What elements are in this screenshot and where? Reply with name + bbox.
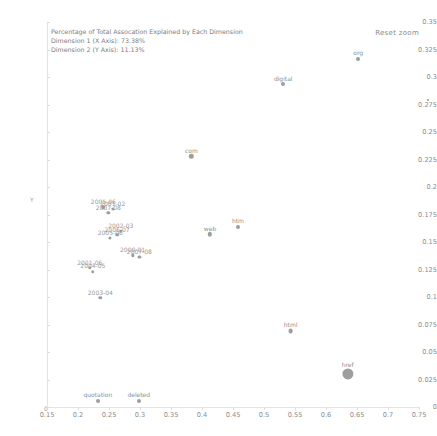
y-axis-tick-label: 0.25 [393,128,437,136]
scatter-point-label: 2004-05 [80,262,105,269]
scatter-point-label: 2007-08 [96,204,121,211]
y-axis-tick-mark [47,22,50,23]
y-axis-tick-label: 0.2 [393,183,437,191]
y-axis-title: Y [30,196,34,203]
scatter-point-label: 2001-06 [77,259,102,266]
legend-dimension-2: Dimension 2 (Y Axis): 11.13% [51,45,243,54]
x-axis-tick-mark [109,407,110,410]
x-axis-tick-label: 0.6 [321,411,332,419]
x-axis-tick-mark [264,407,265,410]
scatter-point[interactable] [111,207,114,210]
y-axis-tick-label: 0.025 [393,376,437,384]
x-axis-tick-label: 0.7 [383,411,394,419]
scatter-point[interactable] [356,57,360,61]
y-axis-tick-mark [47,325,50,326]
y-axis-tick-mark [47,380,50,381]
scatter-point[interactable] [107,211,110,214]
y-axis-tick-mark [47,215,50,216]
x-axis-tick-mark [140,407,141,410]
x-axis-tick-mark [78,407,79,410]
scatter-point[interactable] [281,82,285,86]
x-axis-tick-mark [233,407,234,410]
x-axis-tick-label: 0.15 [40,411,55,419]
chart-legend: Percentage of Total Assocation Explained… [51,27,243,55]
scatter-point[interactable] [138,255,141,258]
scatter-point-label: 2002-03 [108,222,133,229]
x-axis-tick-label: 0.35 [164,411,179,419]
scatter-point[interactable] [109,236,112,239]
scatter-point[interactable] [115,233,119,237]
y-axis-tick-label: 0.15 [393,238,437,246]
scatter-point-label: web [204,225,216,232]
x-axis-tick-mark [295,407,296,410]
y-axis-tick-mark [47,77,50,78]
y-axis-tick-mark [47,242,50,243]
y-axis-tick-label: 0.05 [393,348,437,356]
scatter-point[interactable] [119,229,122,232]
x-axis-tick-mark [388,407,389,410]
x-axis-tick-label: 0.2 [73,411,84,419]
scatter-point-label: 2006-07 [105,226,130,233]
x-axis-tick-label: 0.75 [412,411,427,419]
y-axis-tick-mark [47,160,50,161]
y-axis-tick-mark [47,352,50,353]
reset-zoom-button[interactable]: Reset zoom [375,29,419,37]
y-axis-tick-label: 0.3 [393,73,437,81]
x-axis-tick-label: 0.65 [350,411,365,419]
scatter-point-label: 2005-06 [91,198,116,205]
x-axis-tick-label: 0.4 [197,411,208,419]
scatter-point-label: 2000-01 [120,246,145,253]
scatter-point[interactable] [102,206,106,210]
y-axis-tick-label: 0.325 [393,46,437,54]
y-axis-tick-mark [47,187,50,188]
y-axis-tick-mark [47,270,50,271]
scatter-point[interactable] [88,266,91,269]
x-axis-tick-label: 0.5 [259,411,270,419]
x-axis-tick-mark [357,407,358,410]
scatter-point[interactable] [99,296,102,299]
scatter-point[interactable] [137,399,141,403]
x-axis-tick-mark [47,407,48,410]
x-axis-tick-label: 0.45 [226,411,241,419]
x-axis-tick-label: 0.3 [135,411,146,419]
x-axis-tick-mark [326,407,327,410]
scatter-point[interactable] [131,253,134,256]
scatter-point-label: com [185,147,198,154]
y-axis-tick-label: 0.125 [393,266,437,274]
legend-title: Percentage of Total Assocation Explained… [51,27,243,36]
x-axis-tick-label: 0.55 [288,411,303,419]
y-axis-tick-label: 0.075 [393,321,437,329]
y-axis-tick-mark [47,105,50,106]
scatter-point[interactable] [91,270,95,274]
scatter-point-label: html [284,321,298,328]
x-axis-tick-mark [419,407,420,410]
y-axis-tick-label: 0.275 [393,101,437,109]
x-axis-tick-label: 0.25 [102,411,117,419]
x-axis-tick-mark [171,407,172,410]
y-axis-tick-mark [47,297,50,298]
scatter-point-label: org [353,49,363,56]
y-axis-tick-label: 0.1 [393,293,437,301]
scatter-point-label: htm [232,217,244,224]
scatter-point-label: digital [274,75,293,82]
scatter-point[interactable] [208,232,212,236]
scatter-point[interactable] [288,329,293,334]
x-axis-tick-mark [202,407,203,410]
y-axis-tick-label: 0.35 [393,18,437,26]
scatter-point-label: deleted [127,391,150,398]
y-axis-tick-label: 0.225 [393,156,437,164]
legend-dimension-1: Dimension 1 (X Axis): 73.38% [51,36,243,45]
scatter-point-label: 2003-04 [88,289,113,296]
y-axis-tick-label: 0.175 [393,211,437,219]
correspondence-analysis-plot: Y 0 Percentage of Total Assocation Expla… [0,0,437,436]
y-axis-tick-mark [47,50,50,51]
scatter-point[interactable] [96,399,100,403]
scatter-point[interactable] [189,154,193,158]
scatter-point[interactable] [236,225,240,229]
scatter-point-label: quotation [83,391,112,398]
y-axis-tick-label: 0 [393,403,437,411]
scatter-point[interactable] [342,368,353,379]
y-axis-tick-mark [47,132,50,133]
scatter-point-label: href [342,361,354,368]
